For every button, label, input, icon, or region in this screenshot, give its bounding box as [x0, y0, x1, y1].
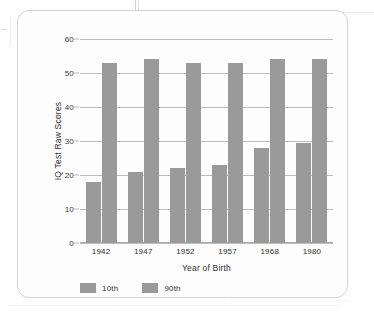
- bar-group: [249, 39, 291, 243]
- y-axis-title: IQ Test Raw Scores: [53, 102, 63, 181]
- bar: [186, 63, 201, 243]
- bar: [212, 165, 227, 243]
- y-axis-tick-mark: [74, 243, 79, 244]
- chart-card: IQ Test Raw Scores 0102030405060 1942194…: [17, 10, 348, 298]
- scan-artifact-bottom-line-2: [230, 300, 350, 301]
- y-axis-tick-label: 40: [65, 102, 74, 111]
- y-axis-tick-mark: [74, 39, 79, 40]
- bar-group: [291, 39, 333, 243]
- legend-swatch: [142, 283, 158, 293]
- y-axis-tick-label: 20: [65, 170, 74, 179]
- y-axis-tick-mark: [74, 209, 79, 210]
- scan-artifact-left-mark: [2, 29, 6, 30]
- bar: [144, 59, 159, 243]
- x-axis-title: Year of Birth: [80, 263, 333, 273]
- bar: [170, 168, 185, 243]
- x-axis-tick-label: 1952: [164, 247, 206, 256]
- bar: [312, 59, 327, 243]
- screenshot-root: IQ Test Raw Scores 0102030405060 1942194…: [0, 0, 374, 321]
- y-axis-tick-mark: [74, 72, 79, 73]
- bar: [270, 59, 285, 243]
- y-axis-tick-label: 60: [65, 35, 74, 44]
- bar-groups: [80, 39, 333, 243]
- bar: [128, 172, 143, 243]
- scan-artifact-bottom-line: [10, 305, 340, 306]
- bar: [86, 182, 101, 243]
- y-axis-tick-label: 30: [65, 137, 74, 146]
- y-axis-tick-mark: [74, 106, 79, 107]
- legend-item: 90th: [142, 283, 180, 293]
- x-axis-tick-label: 1957: [207, 247, 249, 256]
- bar: [102, 63, 117, 243]
- plot-area: 0102030405060: [80, 39, 333, 243]
- legend-item: 10th: [80, 283, 118, 293]
- x-axis-tick-labels: 194219471952195719681980: [80, 247, 333, 256]
- gridline: [80, 243, 333, 244]
- y-axis-tick-label: 50: [65, 68, 74, 77]
- bar-group: [164, 39, 206, 243]
- y-axis-tick-mark: [74, 141, 79, 142]
- y-axis-tick-label: 10: [65, 205, 74, 214]
- x-axis-tick-label: 1968: [249, 247, 291, 256]
- chart-legend: 10th90th: [80, 283, 333, 293]
- legend-label: 10th: [102, 284, 118, 293]
- legend-label: 90th: [164, 284, 180, 293]
- y-axis-tick-mark: [74, 174, 79, 175]
- bar-group: [80, 39, 122, 243]
- x-axis-tick-label: 1947: [122, 247, 164, 256]
- bar-group: [122, 39, 164, 243]
- bar-group: [207, 39, 249, 243]
- legend-swatch: [80, 283, 96, 293]
- y-axis-tick-label: 0: [69, 239, 74, 248]
- bar: [254, 148, 269, 243]
- bar: [228, 63, 243, 243]
- scan-artifact-left-line: [10, 16, 11, 46]
- bar: [296, 143, 311, 243]
- x-axis-tick-label: 1942: [80, 247, 122, 256]
- x-axis-tick-label: 1980: [291, 247, 333, 256]
